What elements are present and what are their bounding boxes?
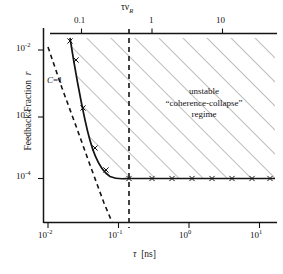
unstable-regime-line-3: regime [150, 109, 258, 121]
x-axis-title: τ [ns] [133, 250, 156, 260]
unstable-regime-line-1: unstable [150, 86, 258, 98]
y-axis-ticks [38, 50, 44, 179]
c-equals-one-label: C=1 [47, 76, 63, 85]
y-tick-label-2: 10-4 [16, 172, 30, 181]
top-tick-label-1: 1 [149, 16, 154, 25]
x-tick-label-3: 101 [250, 231, 262, 240]
y-axis-title-var: r [23, 72, 33, 76]
top-axis-title: τνR [121, 3, 133, 13]
top-tick-label-0: 0.1 [74, 16, 85, 25]
x-axis-ticks-top [82, 29, 223, 34]
x-tick-label-2: 100 [179, 231, 191, 240]
top-tick-label-2: 10 [216, 16, 225, 25]
unstable-regime-annotation: unstable “coherence-collapse” regime [150, 86, 258, 121]
y-axis-title: Feedback Fraction r [23, 51, 33, 171]
x-axis-title-unit: [ns] [141, 249, 156, 259]
x-tick-label-1: 10-1 [108, 231, 122, 240]
x-axis-ticks-bottom [48, 223, 260, 229]
unstable-regime-line-2: “coherence-collapse” [150, 98, 258, 110]
top-axis-title-tau: τν [121, 2, 129, 12]
x-tick-label-0: 10-2 [38, 231, 52, 240]
x-axis-title-var: τ [133, 249, 136, 259]
y-axis-title-main: Feedback Fraction [23, 80, 33, 150]
top-axis-title-subscript: R [129, 7, 133, 14]
figure-container: τνR 0.1 1 10 10-2 10-3 10-4 10-2 10-1 10… [0, 0, 283, 274]
